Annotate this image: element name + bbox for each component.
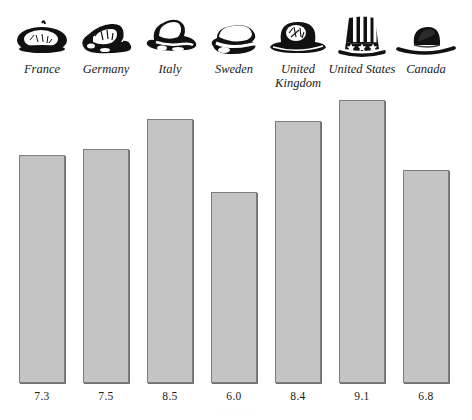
- bar-italy: [147, 119, 193, 383]
- bar-germany: [83, 149, 129, 383]
- country-label: United Kingdom: [262, 62, 334, 90]
- sailor-cap-icon: [202, 2, 266, 58]
- hat-bar-chart: France 7.3 Germany 7.5: [0, 0, 472, 420]
- bar-value-label: 9.1: [326, 390, 398, 402]
- country-label: Germany: [70, 62, 142, 76]
- beret-hat-icon: [10, 2, 74, 58]
- chart-column-canada: Canada 6.8: [394, 0, 458, 420]
- chart-column-united-kingdom: United Kingdom 8.4: [266, 0, 330, 420]
- bar-france: [19, 155, 65, 383]
- bar-sweden: [211, 192, 257, 383]
- bar-canada: [403, 170, 449, 383]
- bowler-hat-icon: [266, 2, 330, 58]
- bar-value-label: 8.5: [134, 390, 206, 402]
- bar-value-label: 8.4: [262, 390, 334, 402]
- fedora-hat-icon: [138, 2, 202, 58]
- chart-column-germany: Germany 7.5: [74, 0, 138, 420]
- bar-value-label: 6.8: [390, 390, 462, 402]
- chart-column-italy: Italy 8.5: [138, 0, 202, 420]
- wide-brim-hat-icon: [394, 2, 458, 58]
- chart-column-france: France 7.3: [10, 0, 74, 420]
- bar-value-label: 7.5: [70, 390, 142, 402]
- country-label: France: [6, 62, 78, 76]
- country-label: Sweden: [198, 62, 270, 76]
- bar-united-kingdom: [275, 121, 321, 383]
- alpine-hat-icon: [74, 2, 138, 58]
- bar-value-label: 6.0: [198, 390, 270, 402]
- country-label: United States: [326, 62, 398, 76]
- bar-united-states: [339, 100, 385, 383]
- country-label: Italy: [134, 62, 206, 76]
- chart-column-united-states: United States 9.1: [330, 0, 394, 420]
- bar-value-label: 7.3: [6, 390, 78, 402]
- chart-column-sweden: Sweden 6.0: [202, 0, 266, 420]
- country-label: Canada: [390, 62, 462, 76]
- uncle-sam-top-hat-icon: [330, 2, 394, 58]
- figure-caption: · · · · · ·: [0, 411, 472, 420]
